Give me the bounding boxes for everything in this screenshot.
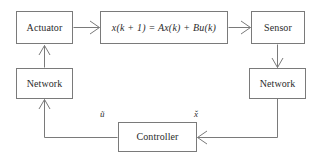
edge-network-tx-to-controller: [198, 99, 278, 138]
node-plant-equation[interactable]: x(k + 1) = Ax(k) + Bu(k): [100, 11, 228, 44]
node-network-sensor-side-label: Network: [260, 79, 296, 89]
edge-label-u-tilde: ũ: [100, 110, 105, 119]
node-controller[interactable]: Controller: [118, 122, 197, 152]
node-network-sensor-side[interactable]: Network: [249, 68, 306, 99]
block-diagram: Actuator x(k + 1) = Ax(k) + Bu(k) Sensor…: [0, 0, 319, 156]
node-actuator[interactable]: Actuator: [16, 11, 73, 44]
edge-label-x-check: x̌: [194, 110, 198, 119]
node-controller-label: Controller: [136, 132, 178, 142]
node-network-actuator-side-label: Network: [27, 79, 63, 89]
node-plant-equation-label: x(k + 1) = Ax(k) + Bu(k): [112, 23, 216, 33]
node-network-actuator-side[interactable]: Network: [16, 68, 73, 99]
node-sensor[interactable]: Sensor: [251, 11, 305, 44]
edge-controller-to-network-rx: [45, 100, 118, 138]
node-sensor-label: Sensor: [264, 23, 292, 33]
node-actuator-label: Actuator: [27, 23, 63, 33]
